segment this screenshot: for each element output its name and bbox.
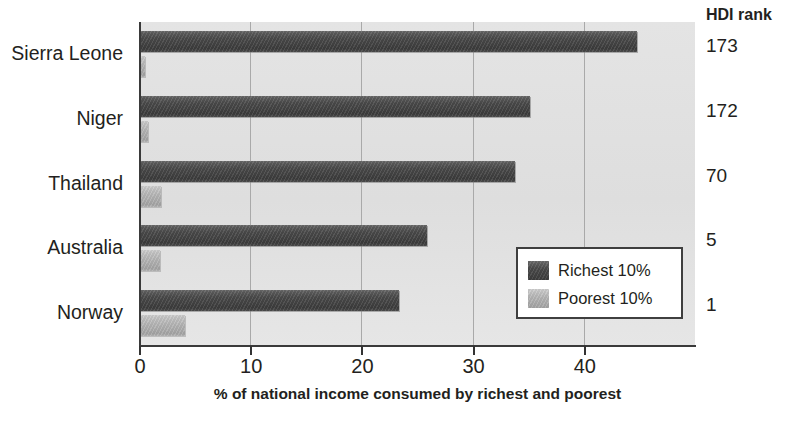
- bar-richest-niger: [139, 96, 530, 117]
- category-label-australia: Australia: [0, 238, 123, 258]
- x-tick-mark: [250, 346, 252, 355]
- legend-swatch-richest-icon: [528, 261, 549, 280]
- bar-chart-figure: Sierra LeoneNigerThailandAustraliaNorway…: [0, 0, 793, 428]
- legend-label-richest: Richest 10%: [558, 262, 651, 279]
- bar-richest-australia: [139, 225, 427, 246]
- hdi-rank-australia: 5: [706, 230, 717, 249]
- hdi-rank-niger: 172: [706, 101, 738, 120]
- category-label-sierra-leone: Sierra Leone: [0, 44, 123, 64]
- legend-swatch-poorest-icon: [528, 289, 549, 308]
- gridline: [473, 22, 474, 345]
- category-label-norway: Norway: [0, 303, 123, 323]
- x-tick-label-20: 20: [351, 356, 373, 376]
- legend-item-poorest: Poorest 10%: [528, 284, 681, 312]
- x-tick-mark: [584, 346, 586, 355]
- hdi-rank-norway: 1: [706, 295, 717, 314]
- hdi-rank-header: HDI rank: [706, 6, 772, 24]
- bar-poorest-norway: [139, 315, 185, 336]
- category-label-niger: Niger: [0, 109, 123, 129]
- bar-richest-sierra-leone: [139, 31, 637, 52]
- hdi-rank-sierra-leone: 173: [706, 36, 738, 55]
- x-tick-label-30: 30: [462, 356, 484, 376]
- y-axis-line: [139, 22, 141, 346]
- x-tick-label-40: 40: [574, 356, 596, 376]
- category-axis-labels: Sierra LeoneNigerThailandAustraliaNorway: [0, 22, 131, 345]
- legend-item-richest: Richest 10%: [528, 256, 681, 284]
- category-label-thailand: Thailand: [0, 174, 123, 194]
- x-tick-label-0: 0: [134, 356, 145, 376]
- x-axis-title: % of national income consumed by richest…: [139, 385, 696, 403]
- chart-legend: Richest 10% Poorest 10%: [516, 247, 683, 319]
- bar-richest-norway: [139, 290, 399, 311]
- legend-label-poorest: Poorest 10%: [558, 290, 652, 307]
- hdi-rank-thailand: 70: [706, 166, 727, 185]
- x-tick-mark: [361, 346, 363, 355]
- bar-poorest-australia: [139, 250, 160, 271]
- x-tick-mark: [139, 346, 141, 355]
- bar-poorest-thailand: [139, 186, 161, 207]
- x-tick-label-10: 10: [240, 356, 262, 376]
- bar-richest-thailand: [139, 161, 515, 182]
- x-axis-line: [139, 345, 696, 347]
- x-tick-mark: [473, 346, 475, 355]
